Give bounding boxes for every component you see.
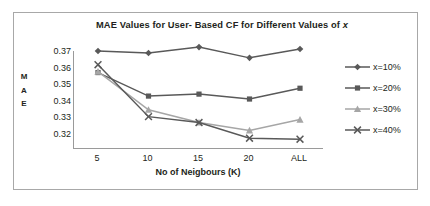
legend-item-x10[interactable]: x=10% <box>344 56 424 77</box>
y-axis-tick-labels: 0.37 0.36 0.35 0.34 0.33 0.32 <box>34 46 71 146</box>
chart-title-italic-x: x <box>343 20 348 30</box>
y-tick-label: 0.34 <box>34 96 71 113</box>
legend-label: x=20% <box>373 83 401 93</box>
chart-title-text: MAE Values for User- Based CF for Differ… <box>96 20 343 30</box>
y-axis-title-line-1: M <box>16 70 32 84</box>
data-point-marker <box>296 116 303 123</box>
data-point-marker <box>354 63 361 70</box>
y-tick-label: 0.37 <box>34 46 71 63</box>
x-tick-label: 20 <box>243 153 253 163</box>
legend-label: x=40% <box>373 125 401 135</box>
data-point-marker <box>95 61 102 68</box>
plot-area <box>73 51 323 149</box>
data-point-marker <box>297 86 302 91</box>
series-canvas <box>68 45 330 155</box>
legend-item-x40[interactable]: x=40% <box>344 119 424 140</box>
data-point-marker <box>355 85 360 90</box>
data-point-marker <box>95 48 102 55</box>
chart-title: MAE Values for User- Based CF for Differ… <box>62 20 382 30</box>
x-tick-label: ALL <box>291 153 307 163</box>
legend-item-x30[interactable]: x=30% <box>344 98 424 119</box>
y-tick-label: 0.35 <box>34 79 71 96</box>
legend-marker-triangle-icon <box>344 103 371 115</box>
chart-figure-border: MAE Values for User- Based CF for Differ… <box>13 12 418 190</box>
data-point-marker <box>246 55 253 62</box>
data-point-marker <box>196 44 203 51</box>
y-tick-label: 0.36 <box>34 63 71 80</box>
chart-legend: x=10%x=20%x=30%x=40% <box>344 56 424 140</box>
legend-marker-square-icon <box>344 82 371 94</box>
data-point-marker <box>146 93 151 98</box>
y-axis-title: M A E <box>16 70 32 111</box>
series-3 <box>94 68 303 133</box>
legend-marker-diamond-icon <box>344 61 371 73</box>
series-4 <box>95 61 304 142</box>
legend-label: x=10% <box>373 62 401 72</box>
x-axis-title: No of Neigbours (K) <box>73 167 323 177</box>
data-point-marker <box>145 50 152 57</box>
y-axis-title-line-3: E <box>16 97 32 111</box>
y-axis-title-line-2: A <box>16 84 32 98</box>
legend-label: x=30% <box>373 104 401 114</box>
data-point-marker <box>196 92 201 97</box>
x-tick-label: 15 <box>193 153 203 163</box>
series-1 <box>95 44 304 61</box>
legend-item-x20[interactable]: x=20% <box>344 77 424 98</box>
y-tick-label: 0.33 <box>34 112 71 129</box>
x-tick-label: 5 <box>94 153 99 163</box>
legend-marker-x-icon <box>344 124 371 136</box>
series-line <box>98 65 300 139</box>
y-tick-label: 0.32 <box>34 129 71 146</box>
x-axis-tick-labels: 5101520ALL <box>73 153 323 167</box>
data-point-marker <box>247 96 252 101</box>
x-tick-label: 10 <box>142 153 152 163</box>
data-point-marker <box>297 46 304 53</box>
series-2 <box>95 70 302 102</box>
